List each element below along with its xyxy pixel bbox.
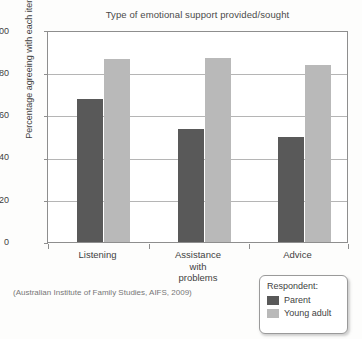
y-tick-label-100: 100	[0, 27, 9, 36]
x-category-advice: Advice	[248, 249, 347, 261]
y-tick-label-80: 80	[0, 69, 9, 78]
bar-advice-parent	[278, 137, 304, 242]
y-tick-mark-60	[44, 116, 48, 117]
bar-listening-parent	[77, 99, 103, 242]
x-category-assistance: Assistance with problems	[148, 249, 248, 284]
bar-assistance-young-adult	[205, 58, 231, 242]
y-axis-label: Percentage agreeing with each item	[24, 0, 34, 162]
x-tick-mark-3	[348, 244, 349, 249]
legend-title: Respondent:	[267, 281, 347, 291]
legend-label-parent: Parent	[284, 295, 311, 305]
y-tick-label-60: 60	[0, 111, 9, 120]
source-citation: (Australian Institute of Family Studies,…	[13, 288, 192, 297]
y-tick-mark-40	[44, 159, 48, 160]
gridline-80	[48, 74, 347, 75]
x-category-advice-line-1: Advice	[248, 249, 347, 261]
x-category-assistance-line-3: problems	[148, 272, 248, 284]
y-tick-label-0: 0	[0, 238, 9, 247]
y-tick-mark-80	[44, 74, 48, 75]
bar-assistance-parent	[178, 129, 204, 242]
y-tick-label-40: 40	[0, 153, 9, 162]
legend-label-young-adult: Young adult	[284, 308, 331, 318]
chart-figure: Type of emotional support provided/sough…	[0, 0, 362, 339]
x-category-listening: Listening	[47, 249, 148, 261]
x-category-assistance-line-1: Assistance	[148, 249, 248, 261]
bar-advice-young-adult	[305, 65, 331, 242]
legend-item-parent: Parent	[267, 295, 347, 305]
chart-title: Type of emotional support provided/sough…	[47, 9, 348, 20]
legend-box: Respondent: Parent Young adult	[259, 275, 348, 334]
x-category-listening-line-1: Listening	[47, 249, 148, 261]
legend-swatch-parent-icon	[267, 296, 279, 305]
legend-swatch-young-adult-icon	[267, 309, 279, 318]
x-category-assistance-line-2: with	[148, 261, 248, 273]
y-tick-mark-100	[44, 31, 48, 32]
legend-item-young-adult: Young adult	[267, 308, 347, 318]
plot-area	[47, 31, 348, 243]
y-tick-mark-20	[44, 201, 48, 202]
y-tick-label-20: 20	[0, 196, 9, 205]
bar-listening-young-adult	[104, 59, 130, 242]
